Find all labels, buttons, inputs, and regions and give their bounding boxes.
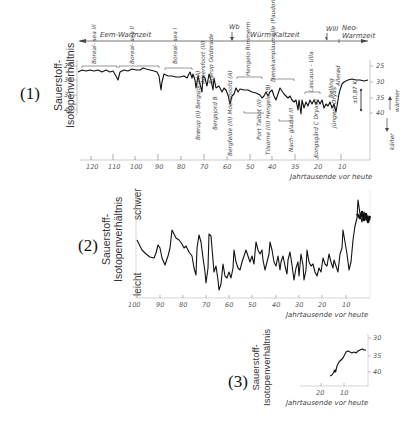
p3-ytick-30: 30 bbox=[373, 334, 381, 342]
panel-3-plot bbox=[0, 0, 414, 424]
p3-xtick: 10 bbox=[340, 389, 348, 397]
p3-xtick: 20 bbox=[316, 389, 324, 397]
p3-ytick-40: 40 bbox=[373, 368, 381, 376]
p3-xlabel: Jahrtausende vor heute bbox=[286, 399, 368, 407]
p3-ytick-35: 35 bbox=[373, 352, 381, 360]
